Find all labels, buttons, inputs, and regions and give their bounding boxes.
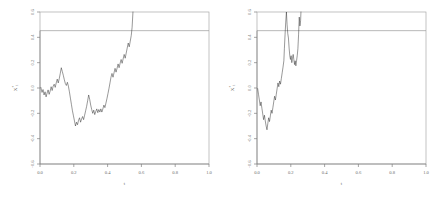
y-tick-label: -0.6 [30,160,35,168]
sample-path-line-left [41,12,133,126]
x-ticklabels-left: 0.00.20.40.60.81.0 [37,170,212,175]
x-tick-label: 0.4 [322,170,328,175]
y-tick-label: -0.2 [30,109,35,117]
x-tick-label: 0.2 [71,170,77,175]
plot-area-right: -0.6-0.4-0.20.00.20.40.6 0.00.20.40.60.8… [217,0,434,212]
x-tick-label: 0.6 [139,170,145,175]
y-tick-label: 0.0 [30,84,35,90]
y-axis-label-right: X*t [229,85,236,91]
y-ticks-right [254,12,257,164]
y-tick-label: 0.6 [247,8,252,14]
figure-two-panel-brownian-paths: -0.6-0.4-0.20.00.20.40.6 0.00.20.40.60.8… [0,0,434,212]
y-tick-label: 0.4 [247,34,252,40]
x-tick-label: 1.0 [206,170,212,175]
y-axis-label-text-right: X*t [229,85,236,91]
data-path-right [258,12,301,130]
y-tick-label: 0.6 [30,8,35,14]
y-ticklabels-right: -0.6-0.4-0.20.00.20.40.6 [247,8,252,167]
y-tick-label: -0.2 [247,109,252,117]
y-tick-label: -0.4 [247,134,252,142]
x-tick-label: 0.8 [389,170,395,175]
x-axis-label-left: t [124,181,126,186]
x-ticklabels-right: 0.00.20.40.60.81.0 [254,170,429,175]
y-tick-label: 0.0 [247,84,252,90]
x-axis-label-right: t [341,181,343,186]
x-tick-label: 0.0 [254,170,260,175]
y-axis-label-left: X*t [12,85,19,91]
y-tick-label: 0.4 [30,34,35,40]
y-axis-left: -0.6-0.4-0.20.00.20.40.6 [30,8,40,167]
plot-box-right [257,12,426,164]
x-tick-label: 1.0 [423,170,429,175]
x-axis-right: 0.00.20.40.60.81.0 [254,164,429,175]
panel-left: -0.6-0.4-0.20.00.20.40.6 0.00.20.40.60.8… [0,0,217,212]
x-ticks-right [257,164,426,167]
y-axis-label-text-left: X*t [12,85,19,91]
x-tick-label: 0.0 [37,170,43,175]
panel-right: -0.6-0.4-0.20.00.20.40.6 0.00.20.40.60.8… [217,0,434,212]
y-tick-label: 0.2 [247,59,252,65]
sample-path-line-right [258,12,301,130]
x-tick-label: 0.2 [288,170,294,175]
y-axis-right: -0.6-0.4-0.20.00.20.40.6 [247,8,257,167]
data-path-left [41,12,133,126]
x-tick-label: 0.4 [105,170,111,175]
y-tick-label: -0.6 [247,160,252,168]
x-tick-label: 0.8 [172,170,178,175]
x-tick-label: 0.6 [356,170,362,175]
x-ticks-left [40,164,209,167]
x-axis-left: 0.00.20.40.60.81.0 [37,164,212,175]
plot-area-left: -0.6-0.4-0.20.00.20.40.6 0.00.20.40.60.8… [0,0,217,212]
y-tick-label: -0.4 [30,134,35,142]
y-ticks-left [37,12,40,164]
y-tick-label: 0.2 [30,59,35,65]
y-ticklabels-left: -0.6-0.4-0.20.00.20.40.6 [30,8,35,167]
plot-box-left [40,12,209,164]
